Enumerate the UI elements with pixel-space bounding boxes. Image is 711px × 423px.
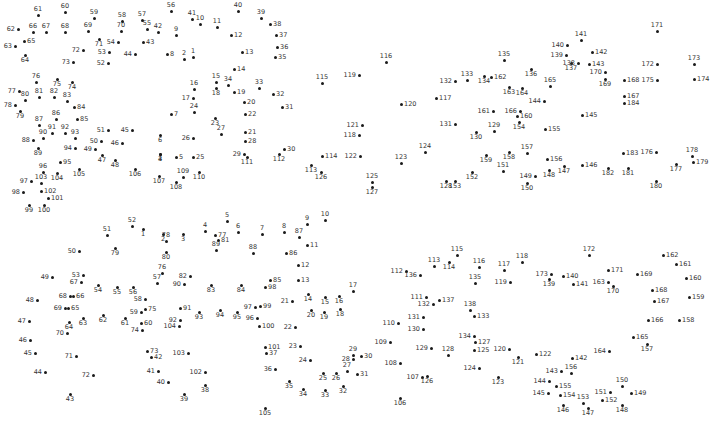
dot-marker[interactable] [371,181,374,184]
dot-marker[interactable] [227,84,230,87]
dot-marker[interactable] [566,44,569,47]
dot-marker[interactable] [38,124,41,127]
dot-marker[interactable] [258,87,261,90]
dot-marker[interactable] [294,326,297,329]
dot-marker[interactable] [400,103,403,106]
dot-marker[interactable] [582,402,585,405]
dot-marker[interactable] [630,392,633,395]
dot-marker[interactable] [150,356,153,359]
dot-marker[interactable] [144,298,147,301]
dot-marker[interactable] [146,28,149,31]
dot-marker[interactable] [75,355,78,358]
dot-marker[interactable] [291,300,294,303]
dot-marker[interactable] [178,325,181,328]
dot-marker[interactable] [607,269,610,272]
dot-marker[interactable] [38,96,41,99]
dot-marker[interactable] [503,59,506,62]
dot-marker[interactable] [233,91,236,94]
dot-marker[interactable] [106,234,109,237]
dot-marker[interactable] [216,26,219,29]
dot-marker[interactable] [435,97,438,100]
dot-marker[interactable] [64,31,67,34]
dot-marker[interactable] [473,315,476,318]
dot-marker[interactable] [621,385,624,388]
dot-marker[interactable] [134,53,137,56]
dot-marker[interactable] [220,133,223,136]
dot-marker[interactable] [607,281,610,284]
dot-marker[interactable] [478,266,481,269]
dot-marker[interactable] [189,275,192,278]
dot-marker[interactable] [73,106,76,109]
dot-marker[interactable] [622,152,625,155]
dot-marker[interactable] [193,111,196,114]
dot-marker[interactable] [252,252,255,255]
dot-marker[interactable] [562,275,565,278]
dot-marker[interactable] [44,371,47,374]
dot-marker[interactable] [141,19,144,22]
dot-marker[interactable] [45,31,48,34]
dot-marker[interactable] [306,223,309,226]
dot-marker[interactable] [656,30,659,33]
dot-marker[interactable] [581,114,584,117]
dot-marker[interactable] [167,381,170,384]
dot-marker[interactable] [604,71,607,74]
dot-marker[interactable] [32,31,35,34]
dot-marker[interactable] [466,79,469,82]
dot-marker[interactable] [144,308,147,311]
dot-marker[interactable] [175,156,178,159]
dot-marker[interactable] [424,151,427,154]
dot-marker[interactable] [655,151,658,154]
dot-marker[interactable] [422,316,425,319]
dot-marker[interactable] [473,335,476,338]
dot-marker[interactable] [87,30,90,33]
dot-marker[interactable] [82,49,85,52]
dot-marker[interactable] [233,68,236,71]
dot-marker[interactable] [259,305,262,308]
dot-marker[interactable] [157,370,160,373]
dot-marker[interactable] [141,329,144,332]
dot-marker[interactable] [662,254,665,257]
dot-marker[interactable] [474,282,477,285]
dot-marker[interactable] [609,391,612,394]
dot-marker[interactable] [519,110,522,113]
dot-marker[interactable] [571,357,574,360]
dot-marker[interactable] [275,34,278,37]
dot-marker[interactable] [297,264,300,267]
dot-marker[interactable] [243,153,246,156]
dot-marker[interactable] [204,371,207,374]
dot-marker[interactable] [51,276,54,279]
dot-marker[interactable] [187,352,190,355]
dot-marker[interactable] [422,328,425,331]
dot-marker[interactable] [215,249,218,252]
dot-marker[interactable] [447,354,450,357]
dot-marker[interactable] [397,322,400,325]
dot-marker[interactable] [37,14,40,17]
dot-marker[interactable] [192,156,195,159]
dot-marker[interactable] [692,161,695,164]
dot-marker[interactable] [237,10,240,13]
dot-marker[interactable] [385,61,388,64]
dot-marker[interactable] [526,152,529,155]
dot-marker[interactable] [29,339,32,342]
dot-marker[interactable] [430,347,433,350]
dot-marker[interactable] [170,113,173,116]
dot-marker[interactable] [572,283,575,286]
dot-marker[interactable] [74,137,77,140]
dot-marker[interactable] [298,236,301,239]
dot-marker[interactable] [678,319,681,322]
dot-marker[interactable] [121,142,124,145]
dot-marker[interactable] [74,147,77,150]
dot-marker[interactable] [693,78,696,81]
dot-marker[interactable] [131,225,134,228]
dot-marker[interactable] [69,295,72,298]
dot-marker[interactable] [608,350,611,353]
dot-marker[interactable] [261,233,264,236]
dot-marker[interactable] [400,162,403,165]
dot-marker[interactable] [47,197,50,200]
dot-marker[interactable] [651,289,654,292]
dot-marker[interactable] [361,124,364,127]
dot-marker[interactable] [502,170,505,173]
dot-marker[interactable] [656,63,659,66]
dot-marker[interactable] [55,118,58,121]
dot-marker[interactable] [508,348,511,351]
